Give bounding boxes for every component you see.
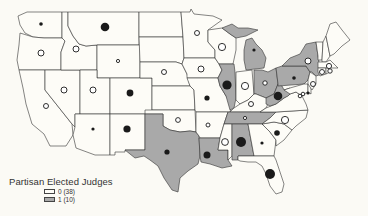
symbol-mt-filled-dot <box>101 23 110 32</box>
symbol-nm-filled-dot <box>123 125 130 132</box>
symbol-ma-hollow-circle <box>326 63 331 68</box>
legend-item-zero: 0 (38) <box>44 187 113 195</box>
symbol-ar-hollow-circle <box>206 123 210 127</box>
symbol-id-hollow-circle <box>73 46 79 52</box>
symbol-mn-hollow-circle <box>195 31 200 36</box>
symbol-wv-filled-dot <box>274 92 283 101</box>
symbol-pa-filled-dot <box>292 76 296 80</box>
symbol-md-hollow-circle <box>301 92 305 96</box>
legend-label-one: 1 (10) <box>58 196 75 203</box>
symbol-ct-hollow-circle <box>320 70 325 75</box>
symbol-nc-hollow-circle <box>281 116 288 123</box>
state-nd <box>139 12 183 37</box>
symbol-nj-hollow-circle <box>311 82 316 87</box>
symbol-wi-hollow-circle <box>218 43 225 50</box>
symbol-ne-hollow-circle <box>162 70 167 75</box>
legend-label-zero: 0 (38) <box>58 188 75 195</box>
symbol-tx-filled-dot <box>164 149 169 154</box>
symbol-la-filled-dot <box>204 152 211 159</box>
symbol-de-filled-dot <box>306 91 309 94</box>
legend-item-one: 1 (10) <box>44 195 113 203</box>
state-pa <box>276 66 310 86</box>
legend-title: Partisan Elected Judges <box>9 176 113 187</box>
symbol-ms-hollow-circle <box>222 139 229 146</box>
symbol-wa-filled-dot <box>39 22 43 26</box>
symbol-oh-hollow-circle <box>263 81 267 85</box>
legend-swatch-zero <box>44 189 55 194</box>
symbol-ok-hollow-circle <box>176 118 181 123</box>
symbol-ga-filled-dot <box>260 141 263 144</box>
state-sd <box>139 37 184 64</box>
symbol-in-hollow-circle <box>241 82 248 89</box>
state-mi-lower <box>244 38 266 70</box>
legend: Partisan Elected Judges 0 (38) 1 (10) <box>9 176 113 203</box>
symbol-co-filled-dot <box>127 90 134 97</box>
symbol-tn-hollow-circle <box>243 116 246 119</box>
state-fl <box>238 156 284 194</box>
symbol-il-filled-dot <box>222 80 231 89</box>
symbol-az-filled-dot <box>91 127 94 130</box>
symbol-ny-hollow-circle <box>305 58 311 64</box>
symbol-ri-hollow-circle <box>328 69 332 73</box>
state-nm <box>110 114 145 155</box>
symbol-mi-filled-dot <box>252 48 255 51</box>
symbol-al-filled-dot <box>236 137 246 147</box>
symbol-or-hollow-circle <box>38 50 44 56</box>
state-az <box>73 114 110 155</box>
legend-swatch-one <box>44 197 55 202</box>
symbol-wy-hollow-circle <box>116 59 119 62</box>
state-shapes <box>17 9 350 194</box>
symbol-ia-hollow-circle <box>198 66 204 72</box>
symbol-ut-hollow-circle <box>90 87 96 93</box>
symbol-mo-filled-dot <box>204 95 209 100</box>
symbol-sc-filled-dot <box>274 130 280 136</box>
symbol-fl-filled-dot <box>265 169 275 179</box>
symbol-ky-hollow-circle <box>249 102 254 107</box>
state-ks <box>152 86 195 110</box>
state-me <box>326 22 350 56</box>
symbol-nv-hollow-circle <box>61 87 67 93</box>
symbol-ca-hollow-circle <box>44 104 49 109</box>
